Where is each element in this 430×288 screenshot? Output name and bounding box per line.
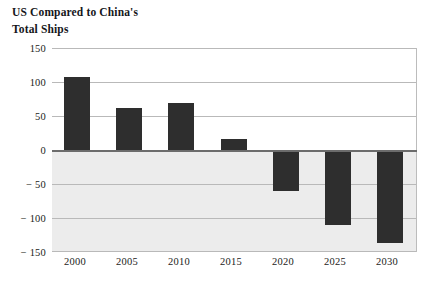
gridline-zero — [52, 150, 417, 152]
y-tick-label: 150 — [2, 43, 46, 54]
y-tick-label: 100 — [2, 77, 46, 88]
y-axis: 150 100 50 0 − 50 − 100 − 150 — [0, 48, 46, 252]
bar-2000 — [64, 77, 90, 150]
y-tick-label: − 100 — [2, 213, 46, 224]
chart-page: US Compared to China's Total Ships 150 1… — [0, 0, 430, 288]
plot-area — [52, 48, 417, 252]
bar-2015 — [221, 139, 247, 150]
x-tick-label: 2010 — [154, 256, 204, 267]
bar-2030 — [377, 150, 403, 243]
x-tick-label: 2025 — [310, 256, 360, 267]
y-tick-label: − 50 — [2, 179, 46, 190]
bar-2005 — [116, 108, 142, 150]
y-tick-label: − 150 — [2, 247, 46, 258]
x-axis: 2000 2005 2010 2015 2020 2025 2030 — [52, 256, 417, 276]
y-tick-label: 50 — [2, 111, 46, 122]
chart-title: US Compared to China's Total Ships — [12, 4, 272, 37]
x-tick-label: 2015 — [206, 256, 256, 267]
x-tick-label: 2000 — [50, 256, 100, 267]
x-tick-label: 2005 — [102, 256, 152, 267]
x-tick-label: 2030 — [362, 256, 412, 267]
bar-2010 — [168, 103, 194, 150]
y-tick-label: 0 — [2, 145, 46, 156]
bar-2025 — [325, 150, 351, 225]
bar-2020 — [273, 150, 299, 191]
x-tick-label: 2020 — [258, 256, 308, 267]
